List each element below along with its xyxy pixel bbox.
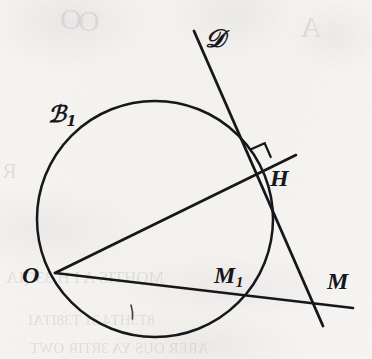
circle-label-subscript: 1 [66, 112, 76, 129]
point-label-M1: M1 [214, 262, 243, 291]
point-label-H: H [270, 165, 289, 192]
point-label-h-base: H [270, 165, 289, 191]
stray-pen-tick [131, 305, 133, 319]
circle-label-C1: ℬ1 [48, 100, 77, 129]
line-label-base: 𝒟 [205, 24, 225, 53]
ray-O-to-H [55, 155, 296, 273]
line-label-D: 𝒟 [205, 24, 225, 54]
point-label-m1-base: M [214, 262, 235, 288]
point-label-m1-subscript: 1 [236, 273, 244, 290]
geometry-figure: OORAMOHTIS A I H 33QIA8T3HT4 31 T38ITAIA… [0, 0, 372, 359]
point-label-M: M [327, 268, 348, 295]
point-label-m-base: M [327, 268, 348, 294]
circle-label-base: ℬ [48, 100, 66, 127]
figure-drawing [0, 0, 372, 359]
point-label-o-base: O [22, 262, 39, 288]
point-label-O: O [22, 262, 39, 289]
circle-C1 [37, 101, 273, 337]
